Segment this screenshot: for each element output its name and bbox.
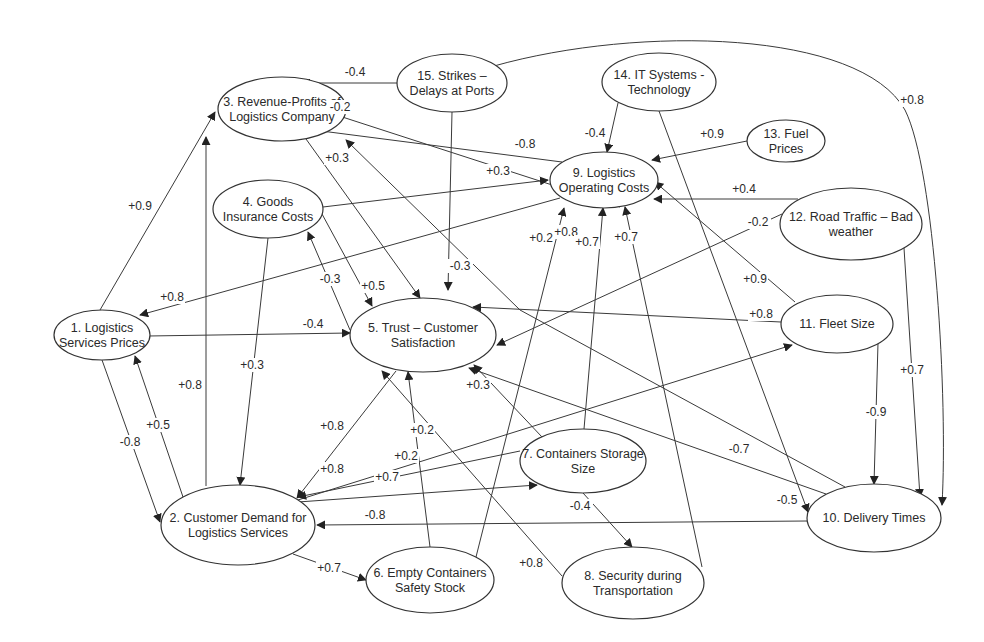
node-15: 15. Strikes –Delays at Ports: [397, 54, 507, 112]
edge-weight-label: -0.3: [450, 259, 471, 273]
node-2: 2. Customer Demand forLogistics Services: [161, 485, 315, 565]
edge-4-to-9: [323, 180, 548, 207]
node-10: 10. Delivery Times: [807, 484, 941, 552]
node-7: 7. Containers StorageSize: [520, 429, 646, 493]
node-label: 1. Logistics: [71, 321, 134, 335]
node-label: Logistics Company: [229, 110, 335, 124]
edge-weight-label: +0.7: [317, 561, 341, 575]
edge-10-to-2: [317, 521, 807, 525]
edge-14-to-9: [607, 103, 618, 152]
edge-11-to-9: [655, 182, 795, 302]
edge-1-to-5: [148, 333, 350, 336]
edge-weight-label: +0.5: [146, 418, 170, 432]
edge-weight-label: -0.4: [345, 65, 366, 79]
edge-weight-label: -0.5: [777, 493, 798, 507]
edge-weight-label: -0.4: [570, 499, 591, 513]
node-label: Safety Stock: [395, 581, 466, 595]
edge-weight-label: -0.8: [515, 137, 536, 151]
node-label: 2. Customer Demand for: [170, 511, 307, 525]
edge-weight-label: +0.8: [749, 307, 773, 321]
edge-weight-label: -0.3: [320, 272, 341, 286]
edge-weight-label: +0.8: [900, 93, 924, 107]
edge-8-to-9: [625, 207, 702, 567]
edge-weight-label: -0.4: [303, 317, 324, 331]
diagram-canvas: 1. LogisticsServices Prices2. Customer D…: [0, 0, 984, 642]
edge-weight-label: -0.2: [748, 215, 769, 229]
node-label: 14. IT Systems -: [614, 68, 705, 82]
edge-weight-label: +0.8: [178, 378, 202, 392]
node-label: Transportation: [593, 584, 673, 598]
node-label: 8. Security during: [584, 569, 681, 583]
node-label: 13. Fuel: [763, 127, 808, 141]
node-8: 8. Security duringTransportation: [562, 547, 704, 619]
node-label: 4. Goods: [243, 195, 294, 209]
edge-weight-label: +0.5: [361, 279, 385, 293]
edge-weight-label: +0.9: [700, 127, 724, 141]
edge-weight-label: -0.8: [120, 435, 141, 449]
edge-weight-label: -0.9: [866, 405, 887, 419]
edge-weight-label: +0.4: [732, 182, 756, 196]
node-label: 5. Trust – Customer: [368, 321, 478, 335]
node-6: 6. Empty ContainersSafety Stock: [366, 547, 494, 613]
edge-weight-label: -0.2: [330, 100, 351, 114]
edge-1-to-3: [100, 112, 215, 310]
node-label: Insurance Costs: [223, 210, 313, 224]
edge-weight-label: +0.8: [320, 419, 344, 433]
node-label: Logistics Services: [188, 526, 288, 540]
node-label: 12. Road Traffic – Bad: [789, 210, 913, 224]
edge-weight-label: -0.8: [365, 508, 386, 522]
edge-weight-label: +0.3: [466, 378, 490, 392]
node-label: weather: [828, 225, 873, 239]
node-9: 9. LogisticsOperating Costs: [550, 152, 658, 208]
node-label: Size: [571, 462, 595, 476]
edge-weight-label: +0.8: [519, 556, 543, 570]
node-label: 7. Containers Storage: [522, 447, 644, 461]
edge-10-to-5: [469, 368, 826, 494]
edge-weight-label: +0.2: [410, 423, 434, 437]
node-5: 5. Trust – CustomerSatisfaction: [350, 298, 496, 372]
node-1: 1. LogisticsServices Prices: [54, 310, 150, 360]
node-14: 14. IT Systems -Technology: [602, 53, 716, 111]
edge-weight-label: +0.3: [325, 151, 349, 165]
edge-weight-label: +0.7: [614, 230, 638, 244]
edge-weight-label: +0.8: [160, 290, 184, 304]
edge-2-to-7: [298, 485, 537, 502]
node-label: 6. Empty Containers: [373, 566, 486, 580]
edge-9-to-1: [140, 198, 560, 315]
node-11: 11. Fleet Size: [781, 295, 893, 353]
edge-weight-label: +0.7: [575, 235, 599, 249]
fcm-diagram: 1. LogisticsServices Prices2. Customer D…: [0, 0, 984, 642]
edge-weight-label: +0.2: [529, 231, 553, 245]
node-label: 10. Delivery Times: [823, 511, 926, 525]
edge-weight-label: +0.9: [128, 199, 152, 213]
node-4: 4. GoodsInsurance Costs: [213, 180, 323, 238]
node-label: 3. Revenue-Profits of: [223, 95, 341, 109]
node-label: 15. Strikes –: [417, 69, 487, 83]
node-12: 12. Road Traffic – Badweather: [780, 188, 922, 260]
node-label: Operating Costs: [559, 181, 649, 195]
edge-weight-label: +0.3: [240, 358, 264, 372]
edge-weight-label: -0.4: [585, 126, 606, 140]
edge-weight-label: +0.9: [743, 272, 767, 286]
node-label: Prices: [769, 142, 804, 156]
node-label: Technology: [627, 83, 691, 97]
node-label: 9. Logistics: [573, 166, 636, 180]
node-label: 11. Fleet Size: [799, 317, 875, 331]
nodes-layer: 1. LogisticsServices Prices2. Customer D…: [54, 53, 941, 619]
node-label: Services Prices: [59, 336, 145, 350]
node-label: Satisfaction: [391, 336, 456, 350]
node-label: Delays at Ports: [410, 84, 495, 98]
edge-weight-label: +0.7: [900, 363, 924, 377]
edge-weight-label: +0.2: [394, 449, 418, 463]
edge-7-to-5: [474, 365, 542, 437]
edge-weight-label: +0.7: [375, 470, 399, 484]
edge-13-to-9: [652, 141, 747, 160]
edge-weight-label: +0.8: [320, 462, 344, 476]
edge-weight-label: -0.7: [729, 442, 750, 456]
node-13: 13. FuelPrices: [747, 120, 825, 162]
edge-weight-label: +0.3: [486, 164, 510, 178]
node-3: 3. Revenue-Profits ofLogistics Company: [218, 77, 346, 141]
